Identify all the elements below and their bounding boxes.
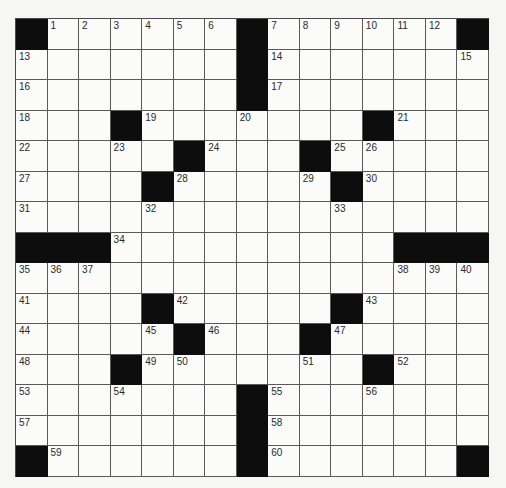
grid-cell[interactable]: 42 xyxy=(174,294,206,325)
grid-cell[interactable]: 43 xyxy=(363,294,395,325)
grid-cell[interactable] xyxy=(394,446,426,477)
grid-cell[interactable] xyxy=(205,446,237,477)
grid-cell[interactable] xyxy=(426,294,458,325)
grid-cell[interactable]: 24 xyxy=(205,141,237,172)
grid-cell[interactable]: 3 xyxy=(111,19,143,50)
grid-cell[interactable] xyxy=(426,80,458,111)
grid-cell[interactable]: 13 xyxy=(16,50,48,81)
grid-cell[interactable] xyxy=(457,385,489,416)
grid-cell[interactable]: 59 xyxy=(48,446,80,477)
grid-cell[interactable]: 47 xyxy=(331,324,363,355)
grid-cell[interactable]: 21 xyxy=(394,111,426,142)
grid-cell[interactable] xyxy=(363,50,395,81)
grid-cell[interactable] xyxy=(363,324,395,355)
grid-cell[interactable]: 19 xyxy=(142,111,174,142)
grid-cell[interactable]: 51 xyxy=(300,355,332,386)
grid-cell[interactable] xyxy=(79,50,111,81)
grid-cell[interactable] xyxy=(426,141,458,172)
grid-cell[interactable] xyxy=(426,324,458,355)
grid-cell[interactable]: 56 xyxy=(363,385,395,416)
grid-cell[interactable]: 8 xyxy=(300,19,332,50)
grid-cell[interactable] xyxy=(457,355,489,386)
grid-cell[interactable] xyxy=(79,202,111,233)
grid-cell[interactable] xyxy=(174,111,206,142)
grid-cell[interactable] xyxy=(394,141,426,172)
grid-cell[interactable]: 7 xyxy=(268,19,300,50)
grid-cell[interactable] xyxy=(394,202,426,233)
grid-cell[interactable]: 58 xyxy=(268,416,300,447)
grid-cell[interactable] xyxy=(111,416,143,447)
grid-cell[interactable]: 26 xyxy=(363,141,395,172)
grid-cell[interactable] xyxy=(111,80,143,111)
grid-cell[interactable] xyxy=(79,416,111,447)
grid-cell[interactable] xyxy=(237,324,269,355)
grid-cell[interactable] xyxy=(237,141,269,172)
grid-cell[interactable] xyxy=(300,202,332,233)
grid-cell[interactable]: 10 xyxy=(363,19,395,50)
grid-cell[interactable]: 27 xyxy=(16,172,48,203)
grid-cell[interactable]: 35 xyxy=(16,263,48,294)
grid-cell[interactable] xyxy=(394,416,426,447)
grid-cell[interactable] xyxy=(142,50,174,81)
grid-cell[interactable] xyxy=(48,202,80,233)
grid-cell[interactable] xyxy=(300,233,332,264)
grid-cell[interactable] xyxy=(48,355,80,386)
grid-cell[interactable]: 29 xyxy=(300,172,332,203)
grid-cell[interactable] xyxy=(394,294,426,325)
grid-cell[interactable] xyxy=(48,385,80,416)
grid-cell[interactable] xyxy=(268,263,300,294)
grid-cell[interactable] xyxy=(48,80,80,111)
grid-cell[interactable]: 6 xyxy=(205,19,237,50)
grid-cell[interactable] xyxy=(426,416,458,447)
grid-cell[interactable] xyxy=(268,355,300,386)
grid-cell[interactable] xyxy=(48,416,80,447)
grid-cell[interactable]: 9 xyxy=(331,19,363,50)
grid-cell[interactable] xyxy=(111,294,143,325)
grid-cell[interactable] xyxy=(363,416,395,447)
grid-cell[interactable]: 23 xyxy=(111,141,143,172)
grid-cell[interactable] xyxy=(331,233,363,264)
grid-cell[interactable] xyxy=(268,233,300,264)
grid-cell[interactable] xyxy=(426,202,458,233)
grid-cell[interactable] xyxy=(457,324,489,355)
grid-cell[interactable]: 30 xyxy=(363,172,395,203)
grid-cell[interactable] xyxy=(457,202,489,233)
grid-cell[interactable] xyxy=(142,385,174,416)
grid-cell[interactable] xyxy=(205,416,237,447)
grid-cell[interactable]: 54 xyxy=(111,385,143,416)
grid-cell[interactable] xyxy=(300,446,332,477)
grid-cell[interactable] xyxy=(457,141,489,172)
grid-cell[interactable]: 5 xyxy=(174,19,206,50)
grid-cell[interactable] xyxy=(394,324,426,355)
grid-cell[interactable] xyxy=(268,172,300,203)
grid-cell[interactable] xyxy=(331,80,363,111)
grid-cell[interactable] xyxy=(457,80,489,111)
grid-cell[interactable]: 20 xyxy=(237,111,269,142)
grid-cell[interactable] xyxy=(426,172,458,203)
grid-cell[interactable] xyxy=(79,111,111,142)
grid-cell[interactable] xyxy=(363,263,395,294)
grid-cell[interactable]: 57 xyxy=(16,416,48,447)
grid-cell[interactable]: 60 xyxy=(268,446,300,477)
grid-cell[interactable] xyxy=(300,50,332,81)
grid-cell[interactable] xyxy=(205,111,237,142)
grid-cell[interactable] xyxy=(174,80,206,111)
grid-cell[interactable] xyxy=(205,50,237,81)
grid-cell[interactable] xyxy=(111,50,143,81)
grid-cell[interactable]: 44 xyxy=(16,324,48,355)
grid-cell[interactable]: 41 xyxy=(16,294,48,325)
grid-cell[interactable]: 34 xyxy=(111,233,143,264)
grid-cell[interactable] xyxy=(48,50,80,81)
grid-cell[interactable] xyxy=(331,385,363,416)
grid-cell[interactable] xyxy=(174,233,206,264)
grid-cell[interactable] xyxy=(426,355,458,386)
grid-cell[interactable] xyxy=(142,446,174,477)
grid-cell[interactable]: 28 xyxy=(174,172,206,203)
grid-cell[interactable]: 32 xyxy=(142,202,174,233)
grid-cell[interactable] xyxy=(174,416,206,447)
grid-cell[interactable] xyxy=(205,355,237,386)
grid-cell[interactable]: 50 xyxy=(174,355,206,386)
grid-cell[interactable] xyxy=(79,141,111,172)
grid-cell[interactable] xyxy=(300,416,332,447)
grid-cell[interactable] xyxy=(79,355,111,386)
